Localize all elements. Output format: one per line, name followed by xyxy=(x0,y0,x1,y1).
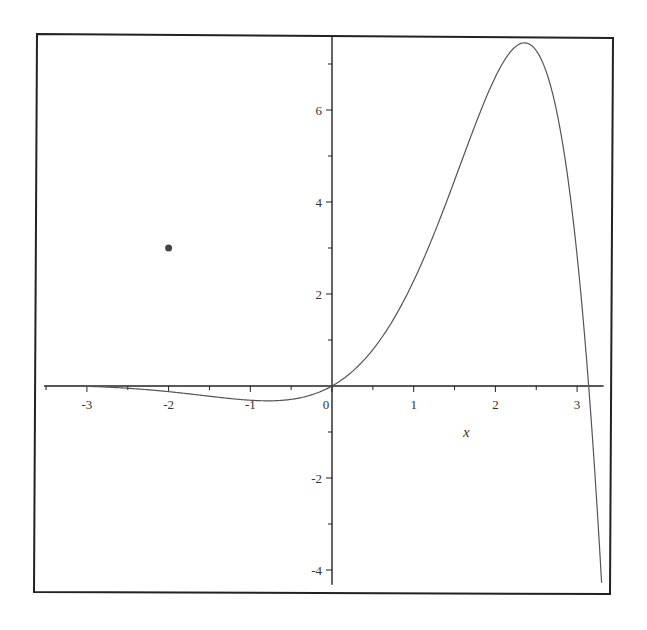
x-tick-label: 2 xyxy=(492,397,499,412)
y-tick-label: 2 xyxy=(316,287,323,302)
y-tick-label: 4 xyxy=(316,195,323,210)
axes xyxy=(44,36,604,585)
function-curve xyxy=(46,43,602,583)
y-tick-label: -4 xyxy=(311,563,322,578)
ticks xyxy=(46,64,577,570)
marker-point xyxy=(165,245,172,252)
plot-frame xyxy=(34,34,613,594)
x-tick-label: -1 xyxy=(245,397,256,412)
x-tick-label: 0 xyxy=(323,397,330,412)
x-axis-label: x xyxy=(462,424,470,440)
x-tick-label: 1 xyxy=(410,397,417,412)
x-tick-label: -3 xyxy=(81,397,92,412)
line-plot: -3-2-10123642-2-4 x xyxy=(0,0,647,630)
data-points xyxy=(165,245,172,252)
y-tick-label: 6 xyxy=(316,103,323,118)
x-tick-label: 3 xyxy=(574,397,581,412)
x-tick-label: -2 xyxy=(163,397,174,412)
y-tick-label: -2 xyxy=(311,471,322,486)
plot-stage: -3-2-10123642-2-4 x xyxy=(0,0,647,630)
